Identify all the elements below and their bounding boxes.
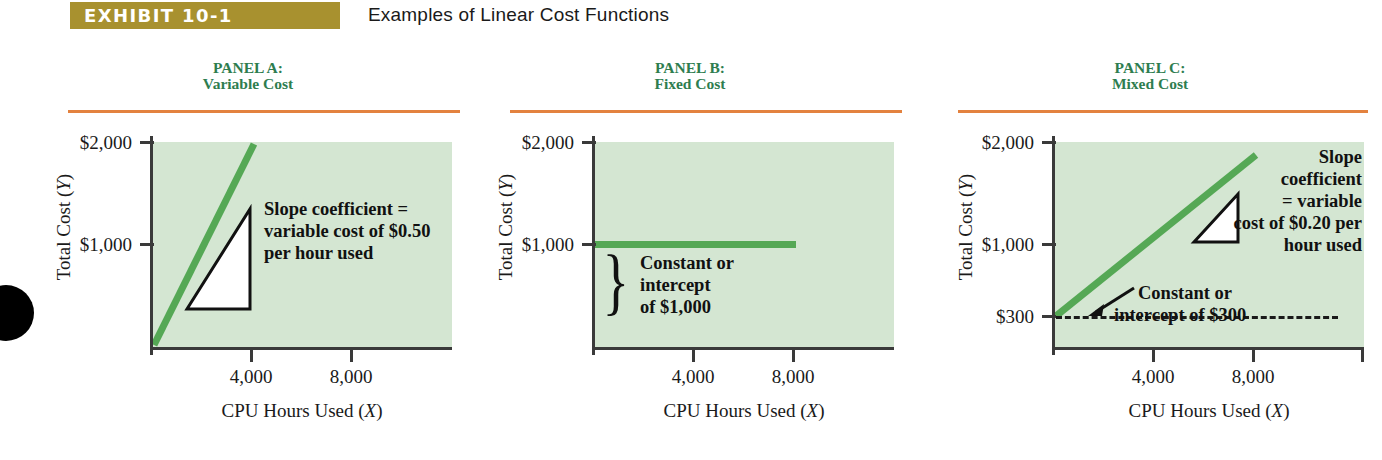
panel-c-ytick-300-label: $300 bbox=[996, 306, 1034, 328]
panel-c-slope-annotation: Slope coefficient = variable cost of $0.… bbox=[1204, 146, 1362, 256]
x-axis-label-text: CPU Hours Used ( bbox=[1129, 400, 1272, 421]
panel-b-annotation-line3: of $1,000 bbox=[640, 296, 860, 318]
panel-a-annotation: Slope coefficient = variable cost of $0.… bbox=[264, 198, 464, 264]
panel-c-xtick-8000-mark bbox=[1252, 347, 1255, 362]
panel-a-annotation-line1: Slope coefficient = bbox=[264, 198, 464, 220]
panel-c-intercept-annotation: Constant or intercept of $300 bbox=[1138, 282, 1358, 326]
x-axis-variable: X bbox=[807, 400, 819, 421]
panel-b-heading-line2: Fixed Cost bbox=[470, 76, 910, 92]
panel-b-heading-line1: PANEL B: bbox=[655, 59, 725, 76]
panel-a-x-axis-label: CPU Hours Used (X) bbox=[150, 400, 454, 422]
panel-b-ytick-labels: $2,000 $1,000 bbox=[470, 132, 592, 362]
x-axis-label-text: CPU Hours Used ( bbox=[664, 400, 807, 421]
panel-c-heading-line2: Mixed Cost bbox=[930, 76, 1370, 92]
panel-a-rule bbox=[68, 110, 460, 113]
panel-c-heading-line1: PANEL C: bbox=[1115, 59, 1186, 76]
panel-b-annotation: Constant or intercept of $1,000 bbox=[640, 252, 860, 318]
panel-c-intercept-line1: Constant or bbox=[1138, 282, 1358, 304]
panel-b-rule bbox=[510, 110, 902, 113]
panel-c-annotation-line4: cost of $0.20 per bbox=[1204, 212, 1362, 234]
panel-mixed-cost: PANEL C: Mixed Cost Total Cost (Y) bbox=[930, 60, 1370, 460]
panel-a-heading: PANEL A: Variable Cost bbox=[28, 60, 468, 96]
panel-c-ytick-labels: $2,000 $1,000 $300 bbox=[930, 132, 1052, 362]
panel-a-heading-line1: PANEL A: bbox=[213, 59, 283, 76]
exhibit-banner: EXHIBIT 10-1 bbox=[70, 2, 340, 29]
panel-c-rule bbox=[958, 110, 1368, 113]
panel-c-annotation-line2: coefficient bbox=[1204, 168, 1362, 190]
panel-a-plot-area: Slope coefficient = variable cost of $0.… bbox=[152, 142, 452, 347]
panel-a-annotation-line2: variable cost of $0.50 bbox=[264, 220, 464, 242]
panel-a-chart: Total Cost (Y) Slope coefficient = varia… bbox=[28, 132, 468, 460]
panel-b-ytick-2000-label: $2,000 bbox=[522, 132, 574, 154]
x-axis-variable: X bbox=[365, 400, 377, 421]
panel-a-ytick-1000-label: $1,000 bbox=[80, 234, 132, 256]
x-axis-variable: X bbox=[1272, 400, 1284, 421]
panel-c-xtick-4000-mark bbox=[1152, 347, 1155, 362]
panel-variable-cost: PANEL A: Variable Cost Total Cost (Y) Sl… bbox=[28, 60, 468, 460]
x-axis-label-close: ) bbox=[376, 400, 382, 421]
panel-b-heading: PANEL B: Fixed Cost bbox=[470, 60, 910, 96]
panel-fixed-cost: PANEL B: Fixed Cost Total Cost (Y) } Con… bbox=[470, 60, 910, 460]
panel-c-xtick-4000-label: 4,000 bbox=[1132, 366, 1175, 388]
panel-a-x-axis bbox=[150, 347, 452, 350]
panel-c-x-axis bbox=[1052, 347, 1364, 350]
x-axis-label-text: CPU Hours Used ( bbox=[222, 400, 365, 421]
panel-c-annotation-line5: hour used bbox=[1204, 234, 1362, 256]
panel-c-plot-area: Slope coefficient = variable cost of $0.… bbox=[1054, 142, 1364, 347]
panel-c-annotation-line1: Slope bbox=[1204, 146, 1362, 168]
panel-a-ytick-labels: $2,000 $1,000 bbox=[28, 132, 150, 362]
panel-c-xtick-end-mark bbox=[1361, 347, 1364, 362]
panel-b-xtick-4000-mark bbox=[692, 347, 695, 362]
panel-a-xtick-8000-mark bbox=[350, 347, 353, 362]
panel-b-brace: } bbox=[602, 244, 629, 318]
panel-a-heading-line2: Variable Cost bbox=[28, 76, 468, 92]
panel-a-ytick-2000-label: $2,000 bbox=[80, 132, 132, 154]
panel-a-annotation-line3: per hour used bbox=[264, 242, 464, 264]
page-title: Examples of Linear Cost Functions bbox=[368, 4, 669, 26]
panel-b-annotation-line1: Constant or bbox=[640, 252, 860, 274]
panel-c-chart: Total Cost (Y) Slope coefficient = varia… bbox=[930, 132, 1370, 460]
panel-b-x-axis bbox=[592, 347, 894, 350]
panel-b-ytick-1000-label: $1,000 bbox=[522, 234, 574, 256]
panel-b-annotation-line2: intercept bbox=[640, 274, 860, 296]
exhibit-label: EXHIBIT 10-1 bbox=[70, 5, 233, 26]
x-axis-label-close: ) bbox=[1283, 400, 1289, 421]
panel-c-xtick-8000-label: 8,000 bbox=[1232, 366, 1275, 388]
panel-c-ytick-1000-label: $1,000 bbox=[982, 234, 1034, 256]
panel-b-plot-area: } Constant or intercept of $1,000 bbox=[594, 142, 894, 347]
panel-b-xtick-8000-mark bbox=[792, 347, 795, 362]
panel-a-xtick-4000-mark bbox=[250, 347, 253, 362]
panel-a-xtick-8000-label: 8,000 bbox=[330, 366, 373, 388]
panel-a-xtick-4000-label: 4,000 bbox=[230, 366, 273, 388]
panel-b-x-axis-label: CPU Hours Used (X) bbox=[592, 400, 896, 422]
panel-c-annotation-line3: = variable bbox=[1204, 190, 1362, 212]
panel-c-x-axis-label: CPU Hours Used (X) bbox=[1052, 400, 1366, 422]
panel-c-heading: PANEL C: Mixed Cost bbox=[930, 60, 1370, 96]
x-axis-label-close: ) bbox=[818, 400, 824, 421]
panel-b-xtick-4000-label: 4,000 bbox=[672, 366, 715, 388]
panel-c-intercept-line2: intercept of $300 bbox=[1114, 304, 1358, 326]
panel-c-ytick-2000-label: $2,000 bbox=[982, 132, 1034, 154]
panel-b-xtick-8000-label: 8,000 bbox=[772, 366, 815, 388]
panel-b-chart: Total Cost (Y) } Constant or intercept o… bbox=[470, 132, 910, 460]
